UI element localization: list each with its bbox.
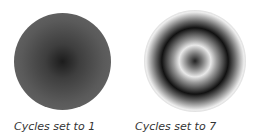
radial-gradient-circle-1-cycle <box>14 13 111 110</box>
caption-cycles-1: Cycles set to 1 <box>14 120 95 133</box>
radial-gradient-circle-7-cycles <box>144 10 246 112</box>
caption-cycles-7: Cycles set to 7 <box>135 120 216 133</box>
